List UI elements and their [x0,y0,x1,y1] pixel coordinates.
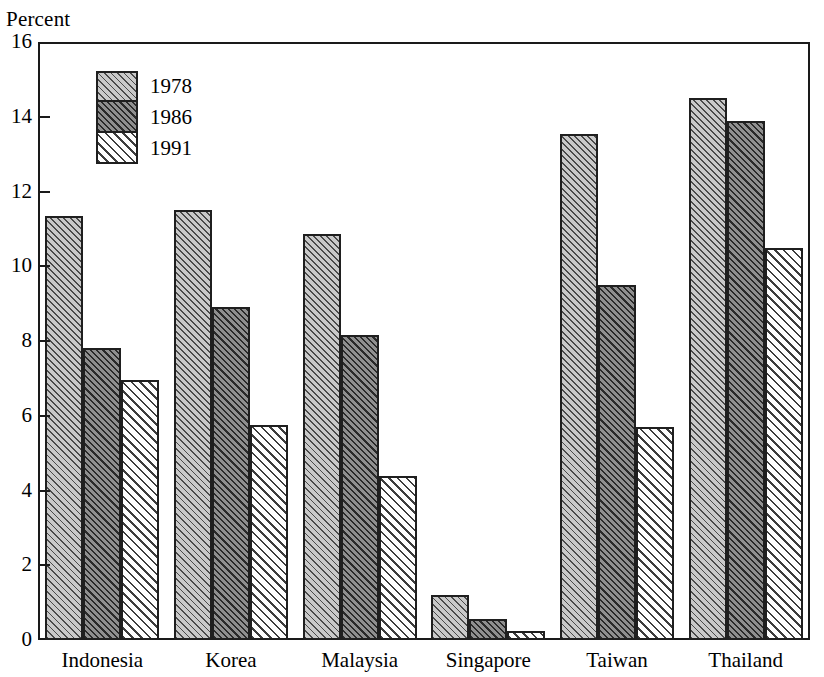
bar-thailand-1986 [727,121,765,641]
x-axis-label-thailand: Thailand [681,645,810,675]
y-axis-tick [38,564,50,566]
bar-malaysia-1978 [303,234,341,640]
chart-legend: 197819861991 [96,71,276,164]
y-axis-tick-label: 2 [0,554,32,575]
bar-indonesia-1986 [83,348,121,640]
legend-item-1986: 1986 [96,102,276,133]
y-axis-tick [38,490,50,492]
y-axis-tick-label: 16 [0,31,32,52]
x-axis-labels: IndonesiaKoreaMalaysiaSingaporeTaiwanTha… [38,645,810,677]
bar-korea-1978 [174,210,212,640]
x-axis-label-singapore: Singapore [424,645,553,675]
y-axis-tick-label: 4 [0,480,32,501]
x-axis-label-korea: Korea [167,645,296,675]
bar-singapore-1991 [507,631,545,640]
bar-indonesia-1991 [121,380,159,640]
legend-swatch-1991 [96,133,138,164]
x-axis-label-malaysia: Malaysia [295,645,424,675]
y-axis-tick [38,116,50,118]
legend-label-1991: 1991 [150,138,192,159]
bar-thailand-1991 [765,248,803,640]
bar-chart: Percent IndonesiaKoreaMalaysiaSingaporeT… [0,0,824,677]
legend-swatch-1978 [96,71,138,102]
y-axis-tick [38,265,50,267]
legend-item-1978: 1978 [96,71,276,102]
y-axis-tick-label: 8 [0,330,32,351]
y-axis-tick-label: 14 [0,106,32,127]
y-axis-tick [38,340,50,342]
bar-thailand-1978 [689,98,727,640]
legend-label-1978: 1978 [150,76,192,97]
y-axis-tick-label: 12 [0,181,32,202]
bar-korea-1991 [250,425,288,640]
bar-taiwan-1991 [636,427,674,640]
legend-item-1991: 1991 [96,133,276,164]
bar-indonesia-1978 [45,216,83,640]
y-axis-title: Percent [6,8,70,30]
bar-singapore-1978 [431,595,469,640]
bar-korea-1986 [212,307,250,640]
x-axis-label-indonesia: Indonesia [38,645,167,675]
bar-singapore-1986 [469,619,507,640]
y-axis-tick-label: 0 [0,629,32,650]
y-axis-tick-label: 10 [0,255,32,276]
legend-swatch-1986 [96,102,138,133]
bar-malaysia-1991 [379,476,417,640]
y-axis-tick-label: 6 [0,405,32,426]
x-axis-label-taiwan: Taiwan [553,645,682,675]
y-axis-tick [38,191,50,193]
y-axis-tick [38,415,50,417]
legend-label-1986: 1986 [150,107,192,128]
bar-taiwan-1986 [598,285,636,640]
bar-malaysia-1986 [341,335,379,640]
bar-taiwan-1978 [560,134,598,640]
